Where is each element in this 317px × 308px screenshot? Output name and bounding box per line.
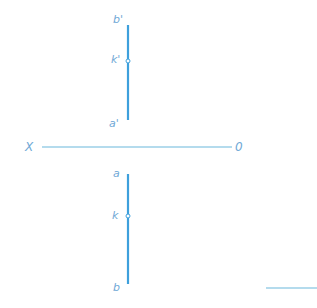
label-b-prime: b' <box>113 14 123 25</box>
label-k-prime: k' <box>111 54 120 65</box>
label-a-prime: a' <box>109 118 119 129</box>
axis-label-0: 0 <box>235 141 243 153</box>
projection-diagram: X 0 b' k' a' a k b <box>0 0 317 308</box>
diagram-canvas <box>0 0 317 308</box>
label-k: k <box>112 210 118 221</box>
front-view-point-k-prime <box>126 59 130 63</box>
axis-label-x: X <box>25 141 33 153</box>
top-view-point-k <box>126 214 130 218</box>
label-a: a <box>113 168 120 179</box>
label-b: b <box>113 282 120 293</box>
